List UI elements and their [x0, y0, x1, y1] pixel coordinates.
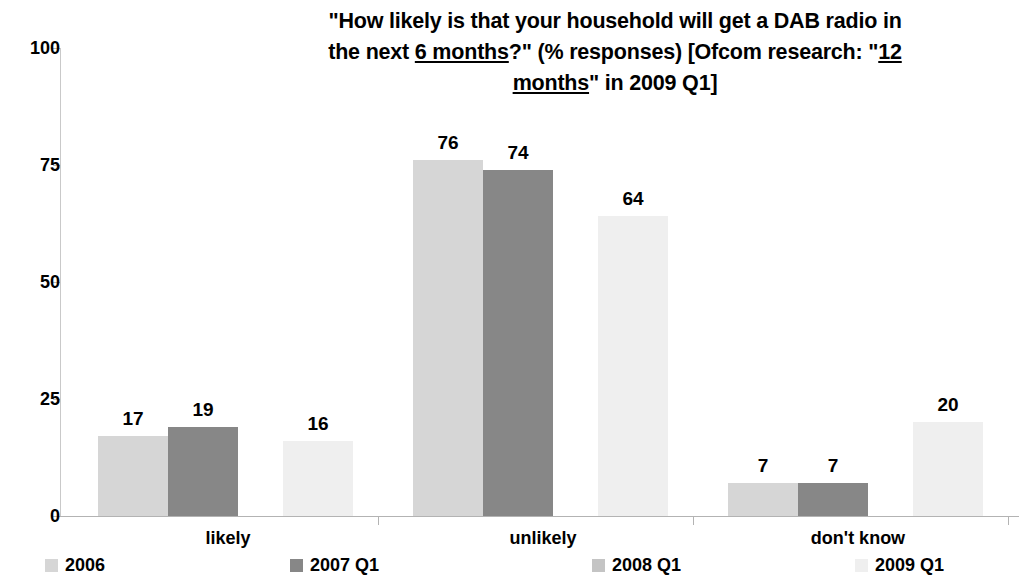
legend-label: 2009 Q1: [875, 556, 944, 574]
bar: [598, 216, 668, 516]
x-axis-separator-tick: [1008, 516, 1009, 525]
bar-value-label: 19: [168, 399, 238, 421]
bar: [728, 483, 798, 516]
bar-value-label: 64: [598, 188, 668, 210]
x-axis-separator-tick: [378, 516, 379, 525]
y-axis-tick-label: 75: [14, 155, 60, 176]
bar-value-label: 74: [483, 142, 553, 164]
bar: [483, 170, 553, 516]
legend-label: 2006: [65, 556, 105, 574]
legend-swatch-icon: [45, 559, 58, 572]
legend-item-2009-q1[interactable]: 2009 Q1: [855, 556, 944, 574]
category-label-unlikely: unlikely: [443, 528, 643, 549]
legend-swatch-icon: [855, 559, 868, 572]
legend-item-2006[interactable]: 2006: [45, 556, 105, 574]
legend-swatch-icon: [290, 559, 303, 572]
chart-legend: 20062007 Q12008 Q12009 Q1: [0, 556, 1019, 579]
y-axis-tick-label: 100: [14, 38, 60, 59]
bar: [168, 427, 238, 516]
bar: [413, 160, 483, 516]
bar-value-label: 16: [283, 413, 353, 435]
legend-label: 2008 Q1: [612, 556, 681, 574]
legend-label: 2007 Q1: [310, 556, 379, 574]
category-label-don-t-know: don't know: [758, 528, 958, 549]
plot-area: 1719167674647720: [60, 48, 1019, 516]
bar: [913, 422, 983, 516]
bar-value-label: 76: [413, 132, 483, 154]
legend-item-2008-q1[interactable]: 2008 Q1: [592, 556, 681, 574]
bar-value-label: 7: [798, 455, 868, 477]
y-axis-tick-label: 0: [14, 506, 60, 527]
y-axis-tick-label: 25: [14, 389, 60, 410]
bar: [283, 441, 353, 516]
y-axis-tick-label: 50: [14, 272, 60, 293]
chart-title-line-1: "How likely is that your household will …: [185, 6, 1019, 37]
legend-swatch-icon: [592, 559, 605, 572]
legend-item-2007-q1[interactable]: 2007 Q1: [290, 556, 379, 574]
category-label-likely: likely: [128, 528, 328, 549]
bar-value-label: 17: [98, 408, 168, 430]
x-axis-separator-tick: [693, 516, 694, 525]
x-axis-line: [60, 516, 1019, 517]
bar-value-label: 20: [913, 394, 983, 416]
bar: [98, 436, 168, 516]
bar-value-label: 7: [728, 455, 798, 477]
bar: [798, 483, 868, 516]
bar-chart: "How likely is that your household will …: [0, 0, 1019, 579]
